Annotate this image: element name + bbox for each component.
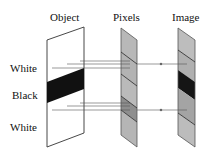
image-label: Image (172, 11, 200, 23)
object-pixels-image-diagram: Object Pixels Image White Black White (0, 0, 208, 157)
row-label-white-top: White (10, 62, 37, 74)
object-panel (47, 27, 84, 147)
object-label: Object (50, 11, 79, 23)
image-panel (178, 28, 195, 147)
row-label-black: Black (12, 89, 38, 101)
row-label-white-bottom: White (10, 121, 37, 133)
pixels-label: Pixels (113, 11, 140, 23)
pixels-panel (121, 28, 137, 147)
